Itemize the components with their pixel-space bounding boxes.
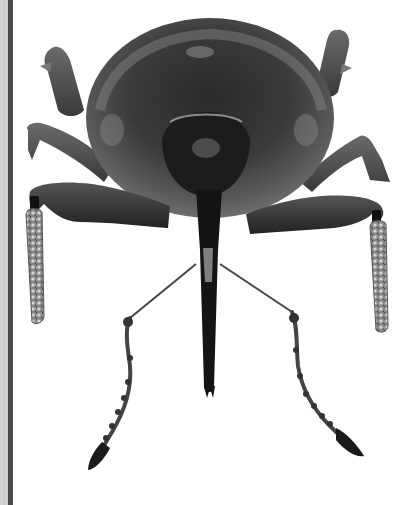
rostrum	[196, 190, 222, 398]
upper-left-leg	[40, 47, 84, 116]
left-tarsus	[26, 209, 44, 324]
left-antenna	[88, 264, 196, 470]
weevil-body	[86, 18, 334, 218]
right-tarsus	[370, 221, 388, 332]
right-antenna	[220, 264, 364, 456]
weevil-illustration	[0, 0, 418, 505]
